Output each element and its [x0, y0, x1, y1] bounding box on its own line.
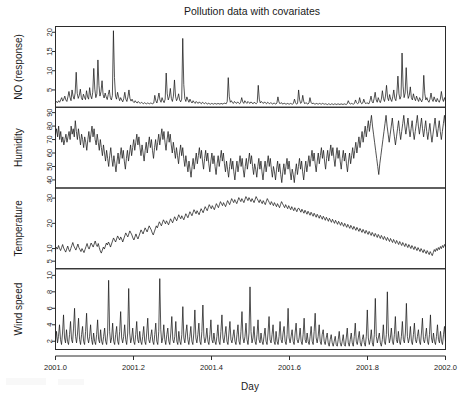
x-tick-label: 2001.2 [122, 363, 145, 372]
y-tick-label: 10 [45, 244, 54, 252]
x-tick-label: 2002.0 [434, 363, 457, 372]
chart-svg: Pollution data with covariates 5101520NO… [0, 0, 464, 395]
x-tick-label: 2001.8 [356, 363, 379, 372]
x-axis-title: Day [241, 381, 259, 392]
y-axis-title-no-response: NO (response) [13, 34, 24, 100]
y-axis-title-temperature: Temperature [13, 200, 24, 257]
y-tick-label: 80 [45, 122, 54, 130]
y-tick-label: 2 [45, 339, 54, 343]
x-tick-label: 2001.4 [200, 363, 223, 372]
y-tick-label: 40 [45, 176, 54, 184]
x-tick-label: 2001.0 [44, 363, 67, 372]
y-tick-label: 50 [45, 162, 54, 170]
y-axis-title-humidity: Humidity [13, 128, 24, 167]
y-tick-label: 20 [45, 219, 54, 227]
scan-artifact-2 [58, 379, 84, 385]
y-tick-label: 70 [45, 135, 54, 143]
y-tick-label: 8 [45, 290, 54, 294]
x-tick-label: 2001.6 [278, 363, 301, 372]
y-tick-label: 5 [45, 88, 54, 92]
y-axis-title-wind-speed: Wind speed [13, 283, 24, 336]
y-tick-label: 30 [45, 194, 54, 202]
y-tick-label: 15 [45, 47, 54, 55]
pollution-multipanel-figure: Pollution data with covariates 5101520NO… [0, 0, 464, 395]
y-tick-label: 20 [45, 28, 54, 36]
y-tick-label: 90 [45, 108, 54, 116]
y-tick-label: 4 [45, 323, 54, 327]
y-tick-label: 6 [45, 306, 54, 310]
y-tick-label: 10 [45, 67, 54, 75]
scan-artifact-1 [6, 378, 46, 385]
y-tick-label: 60 [45, 149, 54, 157]
chart-title: Pollution data with covariates [184, 5, 320, 17]
y-tick-label: 5 [45, 259, 54, 263]
y-tick-label: 10 [45, 271, 54, 279]
